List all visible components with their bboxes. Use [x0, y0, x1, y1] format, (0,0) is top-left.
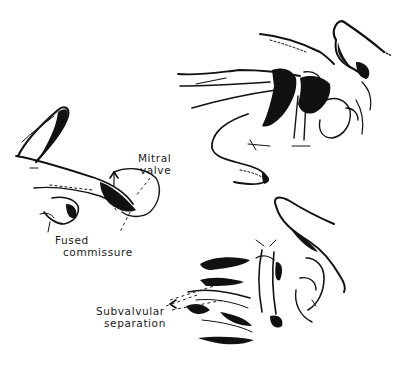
label-mitral-valve-line1: Mitral [132, 152, 171, 164]
label-subvalvular-separation: Subvalvular separation [96, 305, 166, 329]
illustration-canvas [0, 0, 399, 365]
label-fused-commissure-line1: Fused [55, 234, 133, 246]
bottom-right-panel-subvalvular-illustration [166, 198, 345, 345]
label-mitral-valve: Mitral valve [132, 152, 171, 176]
label-fused-commissure: Fused commissure [55, 234, 133, 258]
label-mitral-valve-line2: valve [132, 164, 171, 176]
top-right-panel-commissurotomy-illustration [178, 21, 392, 184]
label-subvalvular-separation-line1: Subvalvular [96, 305, 166, 317]
label-fused-commissure-line2: commissure [55, 246, 133, 258]
label-subvalvular-separation-line2: separation [96, 317, 166, 329]
